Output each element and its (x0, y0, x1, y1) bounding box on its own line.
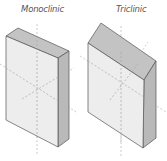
monoclinic-prism (0, 24, 78, 156)
monoclinic-side-face (58, 51, 69, 147)
crystal-systems-diagram (0, 0, 167, 161)
triclinic-prism (80, 23, 166, 156)
